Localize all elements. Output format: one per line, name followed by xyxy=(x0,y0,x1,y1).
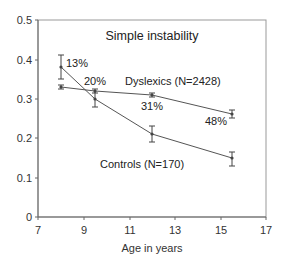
pct-annotation: 48% xyxy=(205,115,227,127)
y-tick-label: 0.3 xyxy=(17,93,32,105)
label-dyslexics: Dyslexics (N=2428) xyxy=(125,75,221,87)
x-tick-label: 11 xyxy=(124,224,135,236)
chart-title: Simple instability xyxy=(105,29,199,43)
y-tick-label: 0.2 xyxy=(17,132,32,144)
y-tick-label: 0.1 xyxy=(17,172,32,184)
x-tick-label: 7 xyxy=(35,224,41,236)
y-tick-label: 0.5 xyxy=(17,14,32,26)
x-tick-label: 15 xyxy=(215,224,227,236)
x-tick-label: 13 xyxy=(169,224,181,236)
label-controls: Controls (N=170) xyxy=(100,158,184,170)
x-axis-label: Age in years xyxy=(121,242,183,254)
pct-annotation: 13% xyxy=(66,57,88,69)
pct-annotation: 31% xyxy=(141,100,163,112)
pct-annotation: 20% xyxy=(84,75,106,87)
y-tick-label: 0 xyxy=(26,211,32,223)
x-tick-label: 17 xyxy=(260,224,272,236)
x-tick-label: 9 xyxy=(81,224,87,236)
y-tick-label: 0.4 xyxy=(17,54,32,66)
chart: 0 0.1 0.2 0.3 0.4 0.5 7 9 11 13 15 17 Ag… xyxy=(0,0,281,269)
